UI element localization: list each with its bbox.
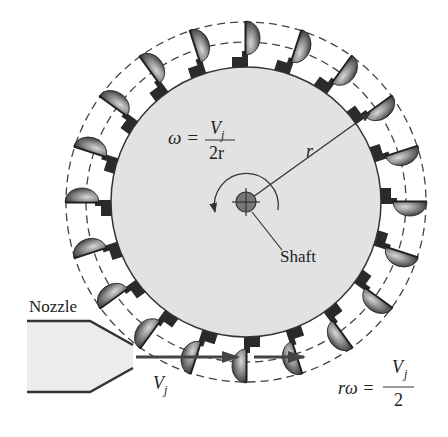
nozzle-label: Nozzle [29,297,77,316]
bucket [65,188,115,216]
rw-equation: rω = V j 2 [338,357,414,410]
svg-text:2r: 2r [209,143,224,163]
nozzle [27,321,133,392]
shaft-label: Shaft [280,247,316,266]
pelton-wheel-diagram: Nozzle Shaft r ω = V j 2r V j rω = V j 2 [0,0,448,437]
jet-velocity-label: V j [153,373,168,397]
bucket [232,21,260,71]
svg-text:ω =: ω = [168,127,199,148]
svg-text:2: 2 [394,390,403,410]
radius-label: r [306,141,314,161]
bucket [377,188,427,216]
svg-text:rω =: rω = [338,378,374,398]
